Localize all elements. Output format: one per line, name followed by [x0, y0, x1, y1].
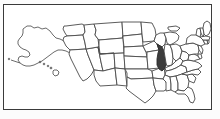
map-frame-border: [3, 4, 212, 110]
alaska-island-dot: [8, 58, 10, 60]
hawaii-island-maui: [50, 67, 52, 69]
state-shape-NM: [115, 68, 127, 86]
us-map-svg: [4, 5, 211, 109]
state-shape-ME: [203, 21, 211, 36]
state-shape-MN: [141, 22, 156, 42]
hawaii-island-kauai: [39, 61, 41, 63]
state-shape-OK: [125, 69, 153, 79]
state-shape-SD: [123, 34, 143, 47]
state-shape-WA: [63, 24, 85, 36]
state-shape-TX: [126, 77, 156, 103]
state-shape-KS: [124, 56, 148, 69]
inset-hawaii: [39, 61, 59, 76]
us-locator-map-figure: [0, 0, 220, 119]
state-shape-MT: [94, 22, 123, 40]
state-shape-WY: [99, 38, 124, 54]
state-shape-MI: [164, 26, 180, 45]
state-shape-AZ: [94, 68, 117, 86]
hawaii-island-molokai: [47, 65, 49, 67]
hawaii-island-big-island: [53, 70, 59, 76]
hawaii-island-oahu: [43, 63, 45, 65]
